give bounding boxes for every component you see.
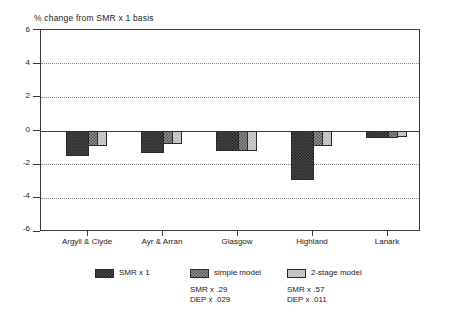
legend-label-twostage: 2-stage model <box>311 268 362 277</box>
bar-glasgow-twostage <box>247 131 257 151</box>
y-tick-mark-minus4 <box>33 197 40 198</box>
chart-figure: % change from SMR x 1 basis 6 4 2 0 -2 -… <box>0 0 449 324</box>
bar-lanark-twostage <box>397 131 407 137</box>
x-tick-label-lanark: Lanark <box>375 237 399 246</box>
legend-swatch-twostage <box>287 269 306 278</box>
y-tick-label-4: 4 <box>4 58 30 67</box>
y-tick-mark-0 <box>33 130 40 131</box>
y-tick-label-0: 0 <box>4 125 30 134</box>
y-tick-mark-4 <box>33 63 40 64</box>
bar-argyll-smr1 <box>66 131 89 156</box>
x-tick-label-ayr: Ayr & Arran <box>142 237 183 246</box>
y-tick-label-minus4: -4 <box>4 191 30 200</box>
legend-swatch-smr1 <box>95 269 114 278</box>
bar-highland-smr1 <box>291 131 314 180</box>
x-tick-mark-ayr <box>162 231 163 236</box>
bar-glasgow-smr1 <box>216 131 239 151</box>
chart-title: % change from SMR x 1 basis <box>34 13 154 23</box>
x-tick-mark-argyll <box>87 231 88 236</box>
bar-argyll-twostage <box>97 131 107 146</box>
gridline-2 <box>41 97 419 98</box>
legend-label-simple: simple model <box>214 268 261 277</box>
y-tick-label-2: 2 <box>4 91 30 100</box>
plot-area <box>40 29 420 231</box>
y-tick-label-6: 6 <box>4 25 30 34</box>
x-tick-mark-lanark <box>387 231 388 236</box>
y-tick-label-minus2: -2 <box>4 158 30 167</box>
bar-highland-twostage <box>322 131 332 146</box>
y-tick-mark-minus6 <box>33 231 40 232</box>
bar-ayr-twostage <box>172 131 182 144</box>
legend-swatch-simple <box>190 269 209 278</box>
bar-lanark-smr1 <box>366 131 389 138</box>
legend-sub-twostage-1: SMR x .57 <box>287 285 397 295</box>
y-tick-mark-6 <box>33 29 40 30</box>
chart-legend: SMR x 1 simple model 2-stage model SMR x… <box>0 268 449 318</box>
legend-label-smr1: SMR x 1 <box>119 268 150 277</box>
legend-sub-simple-2: DEP x .029 <box>190 295 300 305</box>
gridline-minus2 <box>41 164 419 165</box>
x-tick-mark-highland <box>312 231 313 236</box>
legend-sub-simple-1: SMR x .29 <box>190 285 300 295</box>
x-tick-label-argyll: Argyll & Clyde <box>62 237 112 246</box>
x-tick-label-highland: Highland <box>296 237 328 246</box>
gridline-4 <box>41 63 419 64</box>
y-tick-mark-minus2 <box>33 164 40 165</box>
x-tick-label-glasgow: Glasgow <box>221 237 252 246</box>
gridline-minus4 <box>41 198 419 199</box>
legend-sub-twostage-2: DEP x .011 <box>287 295 397 305</box>
x-tick-mark-glasgow <box>237 231 238 236</box>
y-tick-mark-2 <box>33 96 40 97</box>
y-tick-label-minus6: -6 <box>4 224 30 233</box>
bar-ayr-smr1 <box>141 131 164 153</box>
